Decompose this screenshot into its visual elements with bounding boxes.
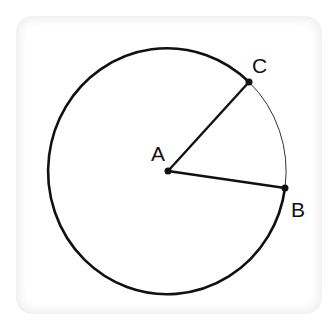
radius-ac bbox=[168, 82, 249, 171]
radius-ab bbox=[168, 171, 285, 188]
minor-arc bbox=[249, 82, 286, 188]
label-b: B bbox=[291, 198, 305, 221]
point-a bbox=[165, 168, 172, 175]
circle-diagram: A B C bbox=[0, 0, 336, 327]
label-c: C bbox=[252, 54, 267, 77]
label-a: A bbox=[151, 142, 165, 165]
point-c bbox=[246, 79, 253, 86]
point-b bbox=[282, 185, 289, 192]
